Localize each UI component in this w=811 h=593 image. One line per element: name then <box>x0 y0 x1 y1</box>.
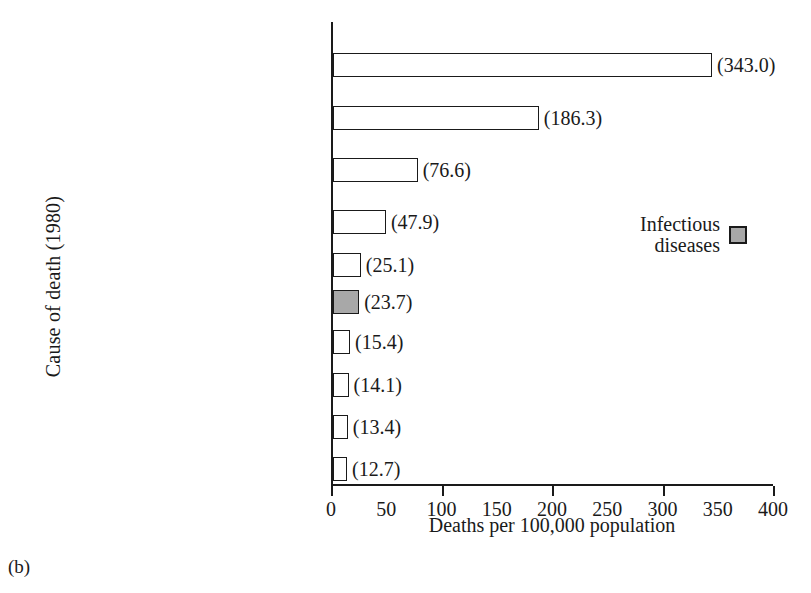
bar-suicide <box>333 457 347 481</box>
figure-caption: (b) <box>8 556 30 578</box>
bar-value-label: (12.7) <box>352 459 400 479</box>
bar-row: (186.3) <box>333 106 775 130</box>
x-axis-tick <box>552 486 554 496</box>
bar-pneumonia-all-forms <box>333 290 359 314</box>
bar-value-label: (186.3) <box>544 108 602 128</box>
bar-atherosclerosis <box>333 415 348 439</box>
bar-chart-figure: Cause of death (1980) (343.0)(186.3)(76.… <box>0 0 811 593</box>
bar-value-label: (25.1) <box>366 255 414 275</box>
bar-cerebrovascular-diseases <box>333 158 418 182</box>
bar-value-label: (47.9) <box>391 212 439 232</box>
bar-value-label: (15.4) <box>355 332 403 352</box>
legend-label-infectious-diseases: Infectious diseases <box>640 214 720 256</box>
bar-row: (343.0) <box>333 53 775 77</box>
x-axis-tick <box>773 486 775 496</box>
bar-row: (14.1) <box>333 373 775 397</box>
bar-value-label: (343.0) <box>717 55 775 75</box>
bar-value-label: (14.1) <box>354 375 402 395</box>
x-axis-title: Deaths per 100,000 population <box>331 514 773 537</box>
bar-row: (25.1) <box>333 253 775 277</box>
x-axis-tick <box>442 486 444 496</box>
bar-all-accidents <box>333 210 386 234</box>
bar-malignant-neoplasms <box>333 106 539 130</box>
bar-row: (76.6) <box>333 158 775 182</box>
bar-value-label: (23.7) <box>364 292 412 312</box>
bar-cirrhosis-of-the-liver <box>333 373 349 397</box>
bar-chronic-obstructive <box>333 253 361 277</box>
x-axis-tick <box>663 486 665 496</box>
y-axis-title: Cause of death (1980) <box>42 122 65 452</box>
bar-row: (13.4) <box>333 415 775 439</box>
bar-diabetes-mellitus <box>333 330 350 354</box>
bar-diseases-of-the-heart <box>333 53 712 77</box>
bar-row: (12.7) <box>333 457 775 481</box>
bar-value-label: (13.4) <box>353 417 401 437</box>
legend: Infectious diseases <box>640 214 747 256</box>
bar-value-label: (76.6) <box>423 160 471 180</box>
bar-row: (23.7) <box>333 290 775 314</box>
bar-row: (15.4) <box>333 330 775 354</box>
x-axis-tick <box>331 486 333 496</box>
legend-swatch-infectious-diseases <box>729 226 747 244</box>
